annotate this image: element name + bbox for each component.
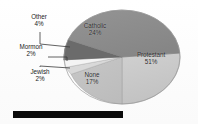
slice-label-catholic: Catholic 24% bbox=[76, 23, 114, 37]
pie-chart-figure: Catholic 24% Protestant 51% None 17% Oth… bbox=[0, 0, 198, 124]
slice-label-other-value: 4% bbox=[22, 21, 56, 28]
slice-label-catholic-value: 24% bbox=[76, 30, 114, 37]
slice-label-jewish: Jewish 2% bbox=[22, 69, 58, 83]
caption-bar bbox=[13, 111, 123, 118]
slice-label-protestant-value: 51% bbox=[127, 59, 175, 66]
slice-label-none: None 17% bbox=[76, 72, 108, 86]
slice-label-other: Other 4% bbox=[22, 14, 56, 28]
slice-label-protestant: Protestant 51% bbox=[127, 52, 175, 66]
slice-label-mormon: Mormon 2% bbox=[10, 44, 52, 58]
slice-label-jewish-value: 2% bbox=[22, 76, 58, 83]
slice-label-mormon-value: 2% bbox=[10, 51, 52, 58]
slice-label-none-value: 17% bbox=[76, 79, 108, 86]
